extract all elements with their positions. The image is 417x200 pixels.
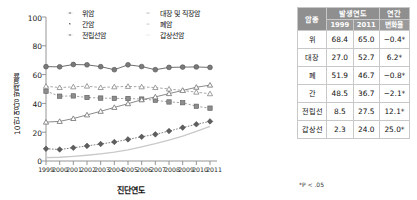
table-row: 대장27.052.76.2* [298,49,410,67]
data-point [166,86,171,91]
data-point [71,84,76,89]
data-point [167,65,172,70]
data-point [194,121,200,127]
data-point [166,128,172,134]
data-point [85,95,89,99]
data-point [208,106,212,110]
cell-1999: 48.5 [327,85,353,103]
data-point [85,62,90,67]
header-year-2011: 2011 [353,20,379,31]
cell-1999: 68.4 [327,31,353,49]
data-point [57,94,61,98]
table-row: 간48.536.7−2.1* [298,85,410,103]
data-point [194,90,199,95]
data-point [57,64,62,69]
legend-label-thyroid: 갑상선암 [160,30,184,40]
legend-label-stomach: 위암 [82,8,94,18]
cell-change: −0.4* [379,31,409,49]
data-point [84,84,89,89]
table-footnote: *P < .05 [299,181,324,188]
table-row: 위68.465.0−0.4* [298,31,410,49]
data-point [139,134,145,140]
legend-label-prostate: 전립선암 [82,30,106,40]
cell-1999: 27.0 [327,49,353,67]
cell-2011: 52.7 [353,49,379,67]
data-point [139,64,144,69]
data-point [57,147,63,153]
data-point [71,62,76,67]
cell-change: −2.1* [379,85,409,103]
legend-label-liver: 간암 [82,19,94,29]
data-point [180,65,185,70]
data-point [194,104,198,108]
cell-change: 12.1* [379,103,409,121]
cell-2011: 36.7 [353,85,379,103]
header-year-1999: 1999 [327,20,353,31]
legend-marker-plain-line [138,34,158,36]
data-point [153,67,158,72]
data-point [71,145,77,151]
data-point [125,137,131,143]
cell-change: 25.0* [379,121,409,139]
legend-marker-open-triangle-dashed [138,23,158,25]
cell-cancer-type: 폐 [298,67,327,85]
table-row: 전립선8.527.512.1* [298,103,410,121]
legend-label-lung: 폐암 [160,19,172,29]
table-header: 암종 발생연도 연간 1999 2011 변화율 [298,8,410,31]
data-point [98,141,104,147]
chart-screenshot: 10만 명당 발생률 진단연도 100 80 60 40 20 0 1999 2… [0,0,417,200]
data-point [207,119,213,125]
cell-cancer-type: 위 [298,31,327,49]
cell-1999: 2.3 [327,121,353,139]
cell-2011: 27.5 [353,103,379,121]
data-point [207,91,212,96]
cell-cancer-type: 간 [298,85,327,103]
data-point [126,96,130,100]
cell-cancer-type: 전립선 [298,103,327,121]
cell-cancer-type: 갑상선 [298,121,327,139]
header-change-rate: 변화율 [379,20,409,31]
legend-marker-filled-diamond [60,34,80,36]
table-row: 폐51.946.7−0.8* [298,67,410,85]
cell-change: 6.2* [379,49,409,67]
data-point [153,132,159,138]
cell-cancer-type: 대장 [298,49,327,67]
data-point [194,65,199,70]
data-point [112,139,118,145]
header-annual: 연간 [379,8,409,20]
cell-2011: 24.0 [353,121,379,139]
incidence-line-chart: 10만 명당 발생률 진단연도 100 80 60 40 20 0 1999 2… [0,0,224,200]
data-point [112,67,117,72]
data-point [43,84,48,89]
data-point [98,96,102,100]
header-cancer-type: 암종 [298,8,327,31]
data-point [43,146,49,152]
data-point [71,94,75,98]
incidence-table: 암종 발생연도 연간 1999 2011 변화율 위68.465.0−0.4*대… [297,7,410,139]
data-point [44,64,49,69]
data-point [98,64,103,69]
cell-2011: 65.0 [353,31,379,49]
cell-change: −0.8* [379,67,409,85]
data-point [44,89,48,93]
data-point [180,100,184,104]
data-point [112,96,116,100]
cancer-incidence-table: 암종 발생연도 연간 1999 2011 변화율 위68.465.0−0.4*대… [297,7,410,139]
legend-marker-filled-square [60,23,80,25]
table-body: 위68.465.0−0.4*대장27.052.76.2*폐51.946.7−0.… [298,31,410,139]
legend-marker-filled-circle [60,12,80,14]
legend-marker-open-triangle [138,12,158,14]
cell-1999: 8.5 [327,103,353,121]
data-point [208,65,213,70]
cell-2011: 46.7 [353,67,379,85]
data-point [126,62,131,67]
table-row: 갑상선2.324.025.0* [298,121,410,139]
cell-1999: 51.9 [327,67,353,85]
data-point [207,83,212,88]
data-point [84,143,90,149]
chart-legend: 위암 간암 전립선암 대장 및 직장암 [60,9,220,41]
header-incidence-year: 발생연도 [327,8,380,20]
legend-label-colorectal: 대장 및 직장암 [160,8,200,18]
table-header-row-1: 암종 발생연도 연간 [298,8,410,20]
data-point [180,125,186,131]
